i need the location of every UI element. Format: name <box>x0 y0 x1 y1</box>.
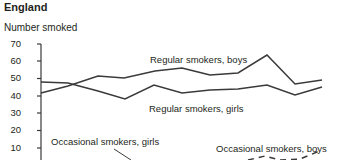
label-regular-boys: Regular smokers, boys <box>150 54 247 65</box>
label-occasional-boys: Occasional smokers, boys <box>216 143 327 154</box>
series-regular-girls <box>41 82 322 99</box>
occasional-girls-leader <box>114 149 131 160</box>
label-occasional-girls: Occasional smokers, girls <box>51 136 159 147</box>
label-regular-girls: Regular smokers, girls <box>149 103 244 114</box>
